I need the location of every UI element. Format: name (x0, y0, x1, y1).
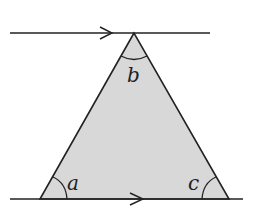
angle-label-c: c (188, 171, 199, 195)
angle-label-a: a (67, 171, 79, 195)
triangle-parallel-lines-diagram: a b c (0, 0, 258, 217)
angle-label-b: b (127, 63, 140, 87)
diagram-canvas: a b c (0, 0, 258, 217)
